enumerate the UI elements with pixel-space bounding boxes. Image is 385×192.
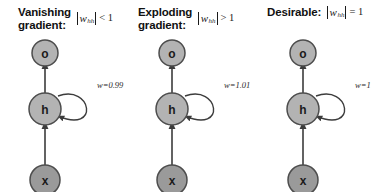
panel-math-expression: whh= 1 (327, 6, 363, 19)
panel-desirable: Desirable: whh= 1 o h x w=1 (255, 0, 385, 192)
panel-title: Vanishing gradient: (18, 6, 71, 31)
panel-math-expression: whh< 1 (77, 12, 113, 25)
panel-title-line2: gradient: (18, 19, 71, 32)
panel-title-line1: Vanishing (18, 6, 71, 18)
math-subscript: hh (87, 18, 94, 25)
panel-title-line1: Desirable: (267, 6, 321, 18)
panel-title-line2: gradient: (138, 19, 192, 32)
node-o-label: o (299, 47, 306, 61)
panel-exploding-gradient: Exploding gradient: whh> 1 o h x w=1.01 (130, 0, 255, 192)
math-relation: = 1 (349, 7, 363, 18)
node-h-label: h (168, 103, 175, 117)
abs-bar-right (217, 12, 218, 25)
edge-h-self-loop (58, 94, 87, 120)
panel-title: Exploding gradient: (138, 6, 192, 31)
rnn-graph: o h x w=1.01 (130, 38, 255, 192)
rnn-graph-svg: o h x w=0.99 (0, 38, 130, 192)
panel-math-expression: whh> 1 (198, 12, 234, 25)
rnn-graph-svg: o h x w=1 (255, 38, 385, 192)
edge-h-self-loop (185, 94, 214, 120)
node-h-label: h (299, 103, 306, 117)
node-o-label: o (41, 47, 48, 61)
self-loop-weight-label: w=0.99 (97, 80, 124, 90)
node-o-label: o (168, 47, 175, 61)
abs-bar-right (345, 6, 346, 19)
math-subscript: hh (209, 18, 216, 25)
panel-vanishing-gradient: Vanishing gradient: whh< 1 o h (0, 0, 130, 192)
math-relation: < 1 (99, 13, 113, 24)
panel-heading: Exploding gradient: whh> 1 (138, 6, 263, 31)
node-x-label: x (300, 174, 307, 188)
edge-h-self-loop (316, 94, 345, 120)
panel-heading: Desirable: whh= 1 (267, 6, 385, 19)
rnn-graph-svg: o h x w=1.01 (130, 38, 255, 192)
self-loop-weight-label: w=1 (355, 80, 371, 90)
math-subscript: hh (337, 12, 344, 19)
rnn-graph: o h x w=0.99 (0, 38, 130, 192)
math-relation: > 1 (221, 13, 235, 24)
node-x-label: x (169, 174, 176, 188)
panel-title: Desirable: (267, 6, 321, 19)
self-loop-weight-label: w=1.01 (224, 80, 250, 90)
panel-heading: Vanishing gradient: whh< 1 (18, 6, 148, 31)
node-x-label: x (42, 174, 49, 188)
node-h-label: h (41, 103, 48, 117)
abs-bar-right (95, 12, 96, 25)
panel-title-line1: Exploding (138, 6, 192, 18)
rnn-graph: o h x w=1 (255, 38, 385, 192)
